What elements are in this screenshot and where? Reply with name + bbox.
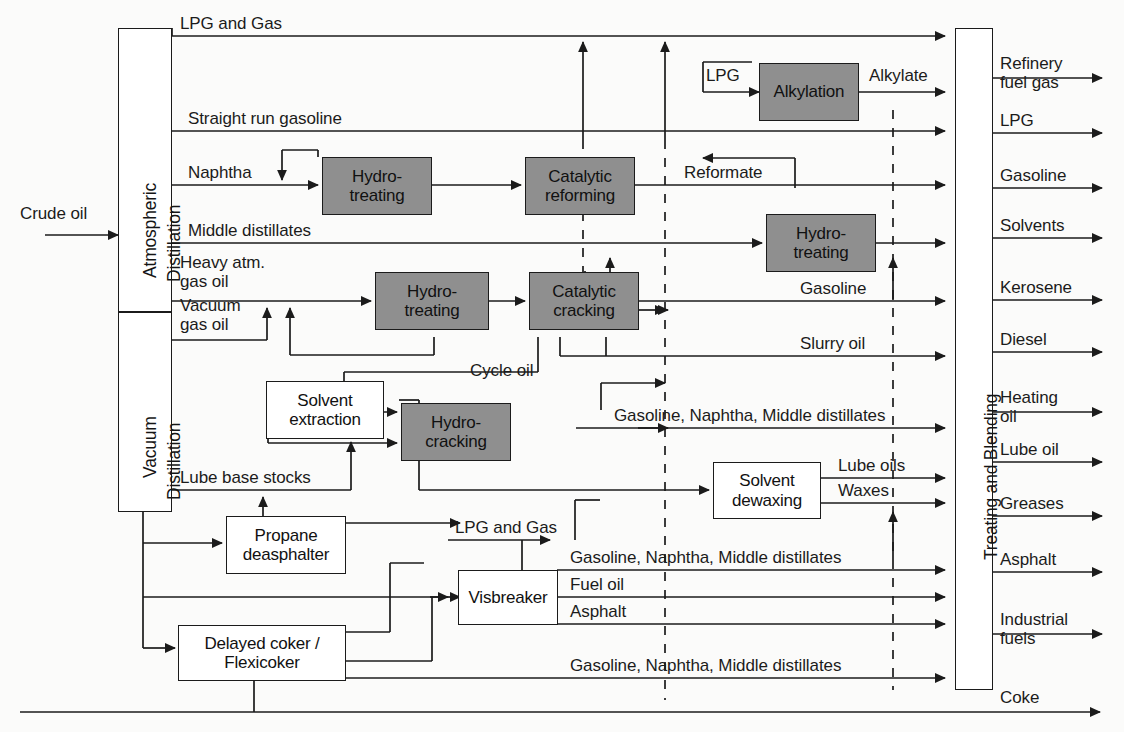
product-heating-oil-line1: Heating bbox=[1000, 388, 1058, 407]
stream-label-lpg-alkylation: LPG bbox=[706, 66, 740, 85]
unit-catalytic-reforming[interactable]: Catalytic reforming bbox=[525, 157, 635, 215]
column-label-vacuum-2: Distillation bbox=[164, 423, 185, 500]
unit-solvent-dewaxing-line2: dewaxing bbox=[732, 491, 802, 510]
product-industrial-fuels-line1: Industrial bbox=[1000, 610, 1068, 629]
product-label-solvents: Solvents bbox=[1000, 216, 1064, 235]
unit-solvent-dewaxing-line1: Solvent bbox=[732, 471, 802, 490]
unit-hydrocracking-line1: Hydro- bbox=[425, 413, 487, 432]
unit-hydrotreating-naphtha[interactable]: Hydro- treating bbox=[322, 157, 432, 215]
unit-alkylation-line1: Alkylation bbox=[774, 82, 845, 101]
column-label-vacuum: Vacuum bbox=[140, 416, 161, 478]
unit-solvent-extraction[interactable]: Solvent extraction bbox=[266, 381, 384, 439]
unit-solvent-extraction-line1: Solvent bbox=[289, 391, 361, 410]
unit-propane-deasphalter-line2: deasphalter bbox=[243, 545, 330, 564]
product-label-heating-oil: Heating oil bbox=[1000, 388, 1058, 426]
unit-coker-line2: Flexicoker bbox=[204, 653, 319, 672]
unit-coker-line1: Delayed coker / bbox=[204, 634, 319, 653]
stream-label-vacuum-gas-oil: Vacuum gas oil bbox=[180, 296, 241, 334]
unit-solvent-dewaxing[interactable]: Solvent dewaxing bbox=[713, 462, 821, 519]
stream-label-straight-run-gasoline: Straight run gasoline bbox=[188, 109, 342, 128]
product-label-coke: Coke bbox=[1000, 688, 1039, 707]
stream-label-lpg-and-gas-visbreaker: LPG and Gas bbox=[455, 518, 557, 537]
product-label-greases: Greases bbox=[1000, 494, 1064, 513]
stream-label-middle-distillates: Middle distillates bbox=[188, 221, 311, 240]
stream-label-reformate: Reformate bbox=[684, 163, 762, 182]
unit-hydrotreating-md-line1: Hydro- bbox=[793, 224, 848, 243]
stream-label-gnm-coker: Gasoline, Naphtha, Middle distillates bbox=[570, 656, 841, 675]
product-refinery-fuel-gas-line2: fuel gas bbox=[1000, 73, 1063, 92]
product-label-asphalt: Asphalt bbox=[1000, 550, 1056, 569]
stream-label-asphalt-visbreaker: Asphalt bbox=[570, 602, 626, 621]
unit-alkylation[interactable]: Alkylation bbox=[759, 63, 859, 121]
stream-label-slurry-oil: Slurry oil bbox=[800, 334, 865, 353]
unit-propane-deasphalter-line1: Propane bbox=[243, 526, 330, 545]
unit-catalytic-cracking-line2: cracking bbox=[552, 301, 615, 320]
unit-visbreaker-line1: Visbreaker bbox=[469, 588, 548, 607]
column-treating-and-blending[interactable] bbox=[955, 28, 993, 690]
stream-label-heavy-atm-gas-oil: Heavy atm. gas oil bbox=[180, 253, 265, 291]
stream-label-gnm-hydrocracker: Gasoline, Naphtha, Middle distillates bbox=[614, 406, 885, 425]
unit-hydrotreating-gasoil-line1: Hydro- bbox=[404, 282, 459, 301]
product-heating-oil-line2: oil bbox=[1000, 407, 1058, 426]
column-label-atmospheric: Atmospheric bbox=[140, 183, 161, 278]
unit-catalytic-reforming-line2: reforming bbox=[545, 186, 615, 205]
stream-label-alkylate: Alkylate bbox=[869, 66, 928, 85]
product-label-kerosene: Kerosene bbox=[1000, 278, 1072, 297]
unit-hydrotreating-gasoil-line2: treating bbox=[404, 301, 459, 320]
stream-label-lube-oils: Lube oils bbox=[838, 456, 905, 475]
stream-label-lube-base-stocks: Lube base stocks bbox=[180, 468, 311, 487]
stream-label-naphtha: Naphtha bbox=[188, 163, 252, 182]
heavy-atm-gas-oil-line1: Heavy atm. bbox=[180, 253, 265, 272]
process-flow-diagram: Atmospheric Distillation Vacuum Distilla… bbox=[0, 0, 1124, 732]
stream-label-waxes: Waxes bbox=[838, 481, 889, 500]
product-label-gasoline: Gasoline bbox=[1000, 166, 1066, 185]
product-label-industrial-fuels: Industrial fuels bbox=[1000, 610, 1068, 648]
column-label-treating-blending: Treating and Blending bbox=[981, 394, 1002, 560]
unit-hydrotreating-middle-distillates[interactable]: Hydro- treating bbox=[766, 214, 876, 272]
unit-catalytic-cracking[interactable]: Catalytic cracking bbox=[529, 272, 639, 330]
vacuum-gas-oil-line2: gas oil bbox=[180, 315, 241, 334]
unit-delayed-coker-flexicoker[interactable]: Delayed coker / Flexicoker bbox=[178, 625, 346, 681]
unit-hydrotreating-naphtha-line2: treating bbox=[349, 186, 404, 205]
unit-hydrotreating-gas-oil[interactable]: Hydro- treating bbox=[375, 272, 489, 330]
unit-catalytic-reforming-line1: Catalytic bbox=[545, 167, 615, 186]
stream-label-lpg-and-gas-top: LPG and Gas bbox=[180, 14, 282, 33]
product-label-lpg: LPG bbox=[1000, 111, 1034, 130]
product-industrial-fuels-line2: fuels bbox=[1000, 629, 1068, 648]
product-label-diesel: Diesel bbox=[1000, 330, 1047, 349]
unit-visbreaker[interactable]: Visbreaker bbox=[458, 570, 558, 625]
unit-catalytic-cracking-line1: Catalytic bbox=[552, 282, 615, 301]
unit-hydrotreating-md-line2: treating bbox=[793, 243, 848, 262]
unit-hydrotreating-naphtha-line1: Hydro- bbox=[349, 167, 404, 186]
input-label-crude-oil: Crude oil bbox=[20, 204, 87, 223]
vacuum-gas-oil-line1: Vacuum bbox=[180, 296, 241, 315]
stream-label-gasoline-fcc: Gasoline bbox=[800, 279, 866, 298]
stream-label-gnm-visbreaker: Gasoline, Naphtha, Middle distillates bbox=[570, 548, 841, 567]
heavy-atm-gas-oil-line2: gas oil bbox=[180, 272, 265, 291]
stream-label-fuel-oil: Fuel oil bbox=[570, 575, 624, 594]
product-refinery-fuel-gas-line1: Refinery bbox=[1000, 54, 1063, 73]
product-label-refinery-fuel-gas: Refinery fuel gas bbox=[1000, 54, 1063, 92]
unit-hydrocracking[interactable]: Hydro- cracking bbox=[401, 403, 511, 461]
unit-propane-deasphalter[interactable]: Propane deasphalter bbox=[226, 516, 346, 574]
product-label-lube-oil: Lube oil bbox=[1000, 440, 1059, 459]
unit-hydrocracking-line2: cracking bbox=[425, 432, 487, 451]
stream-label-cycle-oil: Cycle oil bbox=[470, 361, 533, 380]
unit-solvent-extraction-line2: extraction bbox=[289, 410, 361, 429]
